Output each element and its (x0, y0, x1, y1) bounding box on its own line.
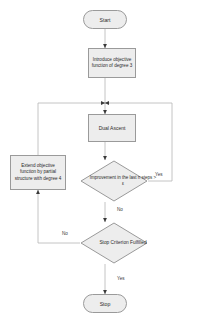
diamond-shape-stop-criterion (80, 222, 148, 264)
node-extend-label: Extend objective function by partial str… (13, 163, 63, 182)
node-introduce-objective-function[interactable]: Introduce objective function of degree 3 (88, 48, 136, 78)
node-stop-criterion-decision[interactable]: Stop Criterion Fulfilled (80, 222, 148, 264)
node-extend-objective-function[interactable]: Extend objective function by partial str… (10, 155, 66, 190)
node-introduce-label: Introduce objective function of degree 3 (91, 57, 133, 70)
node-dual-ascent[interactable]: Dual Ascent (88, 114, 136, 142)
edge-label-stop-criterion-yes: Yes (117, 276, 125, 281)
edge-label-improvement-yes: Yes (155, 172, 163, 177)
diamond-shape-improvement (80, 160, 148, 202)
node-dual-ascent-label: Dual Ascent (99, 125, 126, 131)
node-improvement-decision[interactable]: Improvement in the last n steps > ε (80, 160, 148, 202)
node-stop[interactable]: Stop (83, 294, 127, 313)
edge-label-stop-criterion-no: No (62, 231, 68, 236)
node-start-label: Start (100, 17, 111, 23)
edge-label-improvement-no: No (117, 207, 123, 212)
node-start[interactable]: Start (83, 10, 127, 29)
flowchart-canvas: Start Introduce objective function of de… (0, 0, 206, 322)
node-stop-label: Stop (100, 301, 111, 307)
